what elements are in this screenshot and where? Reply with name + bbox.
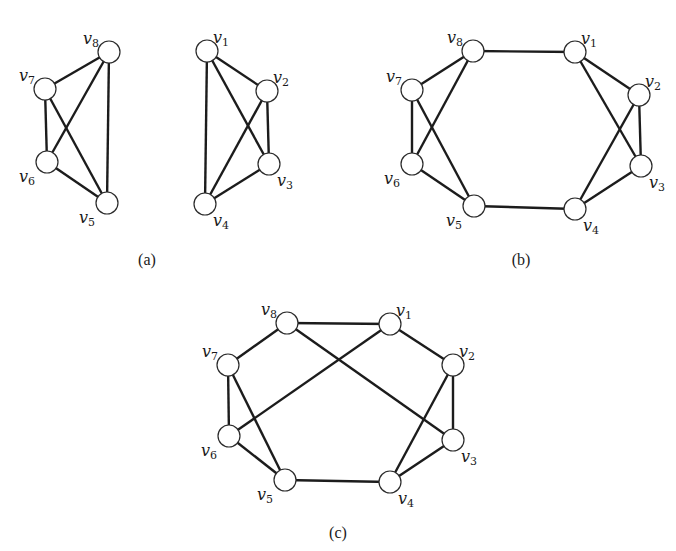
panel-a: v1v2v3v4v5v6v7v8 — [19, 28, 293, 232]
vertex-v7 — [401, 79, 423, 101]
edge-v8-v6 — [47, 52, 109, 162]
vertex-label-v5: v5 — [257, 485, 273, 506]
vertex-v8 — [462, 40, 484, 62]
edge-v8-v1 — [287, 323, 390, 324]
vertex-label-v6: v6 — [19, 167, 35, 188]
vertex-label-v2: v2 — [273, 68, 289, 89]
edge-v5-v4 — [474, 206, 575, 209]
vertex-label-v1: v1 — [213, 28, 229, 49]
edge-v2-v4 — [205, 91, 267, 204]
edge-v7-v5 — [45, 89, 107, 203]
vertex-label-v4: v4 — [398, 489, 414, 510]
vertex-v6 — [401, 153, 423, 175]
vertex-label-v2: v2 — [645, 72, 661, 93]
vertex-v5 — [463, 195, 485, 217]
vertex-label-v5: v5 — [446, 211, 462, 232]
vertex-label-v6: v6 — [201, 441, 217, 462]
vertex-label-v7: v7 — [386, 67, 402, 88]
vertex-label-v7: v7 — [19, 66, 35, 87]
vertex-label-v1: v1 — [396, 301, 412, 322]
vertex-label-v1: v1 — [581, 29, 597, 50]
vertex-v5 — [96, 192, 118, 214]
vertex-v5 — [274, 469, 296, 491]
vertex-v8 — [276, 312, 298, 334]
vertex-label-v5: v5 — [79, 208, 95, 229]
vertex-label-v2: v2 — [459, 342, 475, 363]
panel-b: v1v2v3v4v5v6v7v8 — [384, 28, 665, 237]
vertex-v7 — [34, 78, 56, 100]
vertex-label-v3: v3 — [277, 171, 293, 192]
vertex-label-v4: v4 — [583, 216, 599, 237]
vertex-label-v8: v8 — [261, 300, 277, 321]
edge-v2-v4 — [390, 365, 453, 482]
panel-c: v1v2v3v4v5v6v7v8 — [201, 300, 477, 510]
vertex-label-v8: v8 — [83, 29, 99, 50]
vertex-v6 — [36, 151, 58, 173]
edge-v1-v4 — [205, 51, 207, 204]
vertex-label-v3: v3 — [649, 173, 665, 194]
vertex-v7 — [217, 354, 239, 376]
vertex-v6 — [218, 425, 240, 447]
graph-figure: v1v2v3v4v5v6v7v8 v1v2v3v4v5v6v7v8 v1v2v3… — [0, 0, 676, 551]
edge-v8-v1 — [473, 51, 575, 52]
vertex-label-v7: v7 — [202, 342, 218, 363]
edge-v8-v3 — [287, 323, 453, 440]
vertex-label-v8: v8 — [447, 28, 463, 49]
edge-v7-v5 — [228, 365, 285, 480]
edge-v1-v3 — [207, 51, 269, 164]
edge-v3-v4 — [575, 166, 641, 209]
caption-a: (a) — [138, 251, 156, 269]
vertex-label-v4: v4 — [213, 211, 229, 232]
edge-v5-v4 — [285, 480, 390, 482]
vertex-label-v3: v3 — [461, 447, 477, 468]
edge-v2-v4 — [575, 95, 639, 209]
vertex-v8 — [98, 41, 120, 63]
caption-c: (c) — [329, 524, 347, 542]
caption-b: (b) — [512, 251, 531, 269]
edge-v8-v5 — [107, 52, 109, 203]
vertex-label-v6: v6 — [384, 169, 400, 190]
